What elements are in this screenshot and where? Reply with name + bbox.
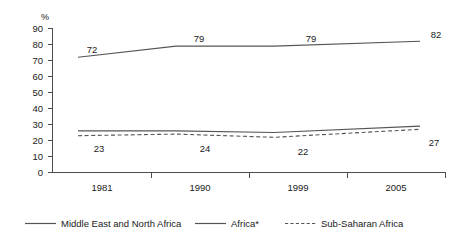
chart-canvas: % 90 80 70 60 50 40 30 20 1: [0, 0, 465, 239]
legend-item-label: Africa*: [231, 218, 259, 229]
y-tick-label: 60: [32, 71, 43, 82]
x-tick-label: 1981: [91, 182, 112, 193]
series-line-africa: [78, 126, 420, 132]
y-tick-label: 30: [32, 119, 43, 130]
series-line-middle-east-north-africa: [78, 41, 420, 57]
y-tick-label: 10: [32, 151, 43, 162]
legend-item-sub-saharan-africa[interactable]: Sub-Saharan Africa: [285, 218, 404, 229]
y-tick-label: 90: [32, 23, 43, 34]
x-tick-label: 2005: [385, 182, 406, 193]
legend-item-africa[interactable]: Africa*: [195, 218, 259, 229]
x-tick-label: 1990: [189, 182, 210, 193]
y-axis-unit-label: %: [41, 12, 49, 22]
line-chart: % 90 80 70 60 50 40 30 20 1: [0, 0, 465, 239]
data-label: 23: [94, 143, 105, 154]
x-axis-ticks: [152, 173, 446, 179]
y-tick-label: 80: [32, 39, 43, 50]
data-label: 79: [306, 33, 317, 44]
data-label: 22: [298, 146, 309, 157]
y-tick-label: 20: [32, 135, 43, 146]
y-axis-ticks: [48, 29, 53, 173]
data-label: 72: [87, 44, 98, 55]
data-label: 82: [431, 29, 442, 40]
x-tick-label: 1999: [287, 182, 308, 193]
data-labels-sub-saharan-africa: 23 24 22 27: [94, 137, 440, 157]
y-tick-label: 40: [32, 103, 43, 114]
data-label: 24: [200, 143, 211, 154]
legend-item-label: Middle East and North Africa: [61, 218, 182, 229]
y-tick-label: 50: [32, 87, 43, 98]
y-axis-tick-labels: 90 80 70 60 50 40 30 20 10 0: [32, 23, 43, 178]
y-tick-label: 0: [38, 167, 43, 178]
x-axis-tick-labels: 1981 1990 1999 2005: [91, 182, 406, 193]
legend-item-label: Sub-Saharan Africa: [321, 218, 404, 229]
data-label: 27: [429, 137, 440, 148]
chart-legend: Middle East and North Africa Africa* Sub…: [25, 218, 404, 229]
y-tick-label: 70: [32, 55, 43, 66]
data-label: 79: [194, 33, 205, 44]
legend-item-middle-east-and-north-africa[interactable]: Middle East and North Africa: [25, 218, 182, 229]
